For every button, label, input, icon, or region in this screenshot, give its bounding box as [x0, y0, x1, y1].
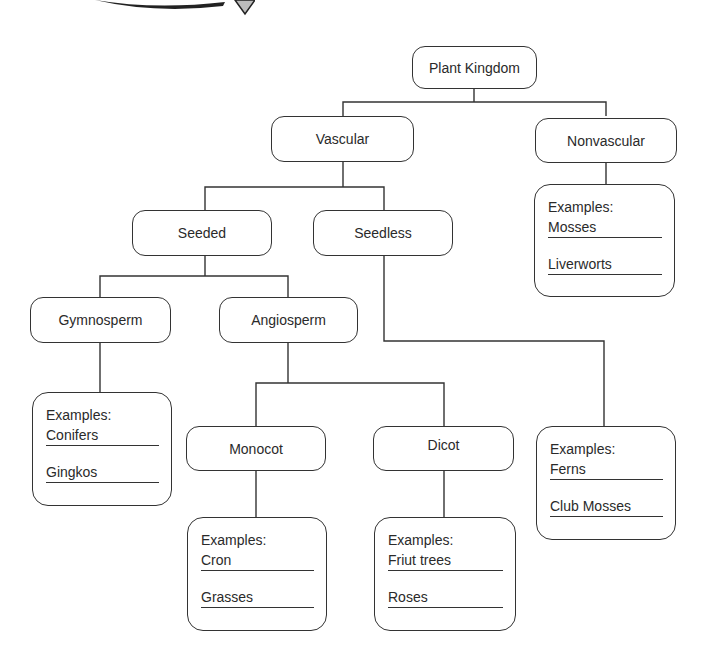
example-item: Mosses — [548, 219, 662, 238]
examples-header: Examples: — [548, 199, 662, 216]
example-item: Cron — [201, 552, 314, 571]
node-label: Vascular — [316, 131, 369, 147]
node-gymnosperm: Gymnosperm — [30, 297, 171, 343]
example-item: Liverworts — [548, 256, 662, 275]
examples-dicot: Examples: Friut trees Roses — [374, 517, 516, 631]
node-label: Seeded — [178, 225, 226, 241]
examples-header: Examples: — [388, 532, 503, 549]
node-label: Monocot — [229, 441, 283, 457]
node-dicot: Dicot — [373, 426, 514, 471]
example-item: Conifers — [46, 427, 159, 446]
node-label: Seedless — [354, 225, 412, 241]
node-label: Angiosperm — [251, 312, 326, 328]
examples-header: Examples: — [46, 407, 159, 424]
node-vascular: Vascular — [271, 116, 414, 162]
node-label: Nonvascular — [567, 133, 645, 149]
node-seeded: Seeded — [132, 210, 272, 256]
example-item: Roses — [388, 589, 503, 608]
node-label: Dicot — [428, 437, 460, 453]
node-label: Gymnosperm — [58, 312, 142, 328]
node-nonvascular: Nonvascular — [535, 118, 677, 163]
node-label: Plant Kingdom — [429, 60, 520, 76]
example-item: Club Mosses — [550, 498, 663, 517]
node-monocot: Monocot — [186, 426, 326, 471]
examples-header: Examples: — [201, 532, 314, 549]
node-angiosperm: Angiosperm — [219, 297, 358, 343]
example-item: Friut trees — [388, 552, 503, 571]
example-item: Ferns — [550, 461, 663, 480]
examples-nonvascular: Examples: Mosses Liverworts — [534, 184, 675, 297]
examples-header: Examples: — [550, 441, 663, 458]
examples-monocot: Examples: Cron Grasses — [187, 517, 327, 631]
node-seedless: Seedless — [313, 210, 453, 256]
example-item: Gingkos — [46, 464, 159, 483]
plant-kingdom-diagram: Plant Kingdom Vascular Nonvascular Seede… — [0, 0, 708, 664]
node-plant-kingdom: Plant Kingdom — [412, 46, 537, 89]
example-item: Grasses — [201, 589, 314, 608]
examples-gymnosperm: Examples: Conifers Gingkos — [32, 392, 172, 506]
examples-seedless: Examples: Ferns Club Mosses — [536, 426, 676, 540]
